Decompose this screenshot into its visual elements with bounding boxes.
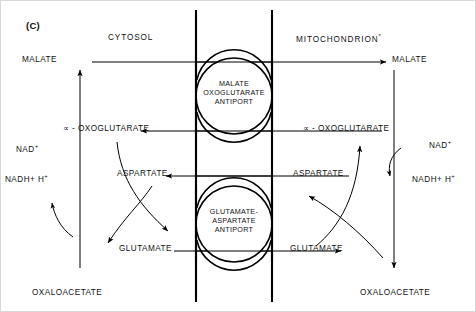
label-cytosol-aspartate: ASPARTATE (117, 170, 168, 179)
carrier-caption-malate-oxoglutarate: MALATE OXOGLUTARATE ANTIPORT (196, 80, 272, 106)
cytosol-transaminase (108, 142, 168, 243)
panel-label: (C) (26, 20, 40, 31)
matrix-glutamate-to-akg-arc (316, 146, 360, 246)
label-matrix-oxaloacetate: OXALOACETATE (360, 289, 430, 298)
mitochondrion-footnote-marker: * (379, 33, 381, 39)
label-matrix-malate: MALATE (392, 56, 427, 65)
carrier-caption-glutamate-aspartate: GLUTAMATE- ASPARTATE ANTIPORT (196, 208, 272, 234)
matrix-transaminase (309, 146, 383, 258)
label-cytosol-nad: NAD+ (16, 143, 38, 154)
cytosol-nadh-charge: + (44, 173, 47, 179)
matrix-nadh-charge: + (451, 173, 454, 179)
carrier-line-3: ANTIPORT (196, 226, 272, 235)
matrix-nad-to-nadh-arc (389, 148, 401, 176)
cytosol-nadh-to-nad-arc (52, 203, 73, 237)
compartment-label-mitochondrion-text: MITOCHONDRION (296, 35, 379, 44)
matrix-nad-text: NAD (429, 141, 448, 150)
compartment-label-cytosol: CYTOSOL (108, 33, 153, 42)
cytosol-nadh-text: NADH+ H (5, 175, 44, 184)
label-matrix-nadh: NADH+ H+ (412, 173, 455, 184)
label-matrix-glutamate: GLUTAMATE (290, 245, 343, 254)
cytosol-akg-to-glutamate-arc (117, 142, 168, 231)
label-matrix-nad: NAD+ (429, 139, 451, 150)
carrier-line-3: ANTIPORT (196, 98, 272, 107)
label-matrix-aspartate: ASPARTATE (293, 170, 344, 179)
label-cytosol-nadh: NADH+ H+ (5, 173, 48, 184)
label-cytosol-glutamate: GLUTAMATE (119, 245, 172, 254)
cytosol-nad-text: NAD (16, 145, 35, 154)
label-cytosol-malate: MALATE (22, 56, 57, 65)
cytosol-aspartate-to-oaa-arc (108, 186, 152, 243)
diagram-canvas (0, 0, 476, 312)
matrix-mdh-reaction (389, 70, 401, 268)
cytosol-mdh-reaction (52, 70, 80, 268)
cytosol-nad-charge: + (35, 143, 38, 149)
label-cytosol-oxoglutarate: ∝ - OXOGLUTARATE (63, 125, 149, 134)
matrix-nadh-text: NADH+ H (412, 175, 451, 184)
matrix-nad-charge: + (448, 139, 451, 145)
compartment-label-mitochondrion: MITOCHONDRION* (296, 33, 381, 44)
label-matrix-oxoglutarate: ∝ - OXOGLUTARATE (303, 125, 389, 134)
label-cytosol-oxaloacetate: OXALOACETATE (32, 289, 102, 298)
